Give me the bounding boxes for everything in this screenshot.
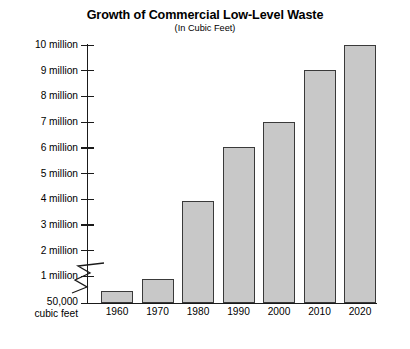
x-label-1960: 1960 [97,306,137,317]
x-label-2010: 2010 [300,306,340,317]
bar-1960 [101,291,133,303]
x-label-2000: 2000 [259,306,299,317]
bar-1990 [223,147,255,303]
x-label-2020: 2020 [340,306,380,317]
x-label-1970: 1970 [138,306,178,317]
bar-2020 [344,45,376,304]
x-label-1990: 1990 [219,306,259,317]
bar-1970 [142,279,174,304]
x-label-1980: 1980 [178,306,218,317]
bar-1980 [182,201,214,303]
bar-2000 [263,122,295,303]
bar-2010 [304,70,336,303]
bars-layer [0,0,410,349]
chart-container: Growth of Commercial Low-Level Waste (In… [0,0,410,349]
